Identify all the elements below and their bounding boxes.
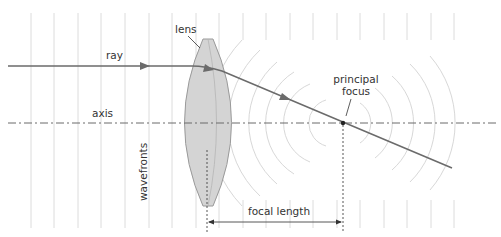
- principal-focus-label-line2: focus: [330, 86, 382, 98]
- axis-label: axis: [92, 108, 113, 120]
- principal-focus-dot: [341, 121, 345, 125]
- ray-arrow-3: [279, 93, 291, 100]
- principal-focus-label: principal focus: [330, 74, 382, 97]
- focal-arrowhead-left: [208, 220, 214, 225]
- ray-label: ray: [106, 50, 123, 62]
- principal-focus-label-line1: principal: [330, 74, 382, 86]
- principal-focus-leader: [346, 99, 351, 116]
- focal-length-label: focal length: [248, 206, 310, 218]
- focal-arrowhead-right: [336, 220, 342, 225]
- lens-diagram: lens ray axis principal focus wavefronts…: [0, 0, 501, 237]
- diagram-canvas: [0, 0, 501, 237]
- wavefronts-label: wavefronts: [138, 143, 150, 201]
- lens-leader: [188, 36, 200, 48]
- lens-label: lens: [175, 24, 197, 36]
- wavefront-stubs: [243, 13, 454, 228]
